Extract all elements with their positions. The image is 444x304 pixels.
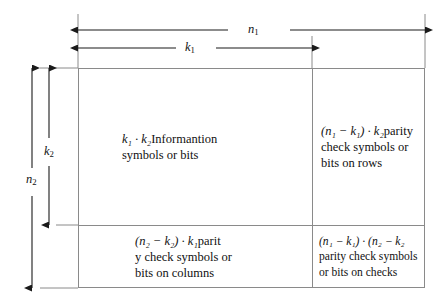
cell-column-parity-line1: (n₂ − k₂) · k₁parit — [135, 233, 312, 249]
cell-row-parity-formula: (n₁ − k₁) · k₂ — [321, 124, 384, 138]
cell-row-parity-line2: check symbols or — [321, 139, 425, 155]
product-code-array-diagram: n1 k1 k2 n2 k₁ · k₂Informantion symbols … — [0, 0, 444, 304]
dimension-label-n2: n2 — [23, 172, 40, 187]
cell-check-parity-formula: (n₁ − k₁) · (n₂ − k₂ — [319, 235, 405, 248]
cell-check-parity-line3: or bits on checks — [319, 265, 425, 280]
cell-information-text1: Informantion — [151, 132, 217, 146]
cell-column-parity: (n₂ − k₂) · k₁parit y check symbols or b… — [78, 226, 312, 288]
cell-information-symbols: k₁ · k₂Informantion symbols or bits — [78, 69, 312, 225]
cell-column-parity-formula: (n₂ − k₂) · k₁ — [135, 234, 198, 248]
cell-check-parity-line1: (n₁ − k₁) · (n₂ − k₂ — [319, 234, 425, 249]
dimension-label-k2-sub: 2 — [50, 149, 54, 159]
dimension-label-k1: k1 — [182, 40, 198, 55]
dimension-label-n1: n1 — [245, 22, 262, 37]
dimension-label-n1-sub: 1 — [254, 27, 258, 37]
cell-information-line1: k₁ · k₂Informantion — [122, 131, 217, 147]
cell-column-parity-text1: parit — [198, 234, 221, 248]
cell-row-parity-text1: parity — [384, 124, 413, 138]
cell-information-formula: k₁ · k₂ — [122, 132, 151, 146]
cell-check-parity-line2: parity check symbols — [319, 249, 425, 264]
cell-row-parity: (n₁ − k₁) · k₂parity check symbols or bi… — [313, 69, 425, 225]
cell-column-parity-line2: y check symbols or — [135, 249, 312, 265]
dimension-label-k1-sub: 1 — [191, 45, 195, 55]
dimension-label-n2-sub: 2 — [32, 177, 36, 187]
cell-column-parity-line3: bits on columns — [135, 265, 312, 281]
cell-information-line2: symbols or bits — [122, 147, 198, 163]
cell-row-parity-line1: (n₁ − k₁) · k₂parity — [321, 123, 425, 139]
dimension-label-k2: k2 — [41, 144, 57, 159]
cell-check-parity: (n₁ − k₁) · (n₂ − k₂ parity check symbol… — [313, 226, 425, 288]
cell-row-parity-line3: bits on rows — [321, 155, 425, 171]
